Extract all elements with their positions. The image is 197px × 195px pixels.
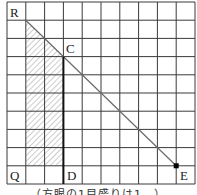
label-E: E [180, 168, 188, 183]
point-E-dot [174, 163, 179, 168]
caption: （方眼の1目盛りは1 ） [30, 185, 166, 195]
label-C: C [66, 41, 75, 56]
label-Q: Q [10, 168, 20, 183]
label-R: R [10, 5, 19, 20]
grid-diagram: R C Q D E [0, 0, 197, 195]
label-D: D [67, 168, 76, 183]
